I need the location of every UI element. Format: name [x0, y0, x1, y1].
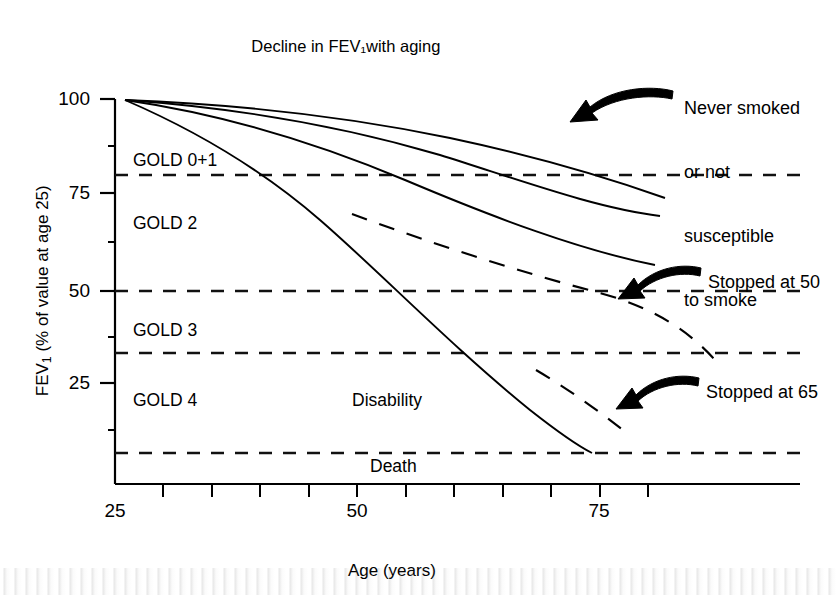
- curve-stopped-at-50: [352, 214, 715, 360]
- xtick-label-75: 75: [569, 500, 629, 522]
- zone-label-gold-3: GOLD 3: [133, 320, 197, 341]
- annotation-never-smoked-line2: or not: [684, 162, 800, 183]
- annotation-never-smoked: Never smoked or not susceptible to smoke: [684, 56, 800, 353]
- zone-label-death: Death: [370, 456, 417, 477]
- zone-label-disability: Disability: [352, 390, 422, 411]
- ytick-label-100: 100: [30, 88, 90, 110]
- annotation-stopped-at-65: Stopped at 65: [706, 382, 818, 403]
- y-axis-label-suffix: (% of value at age 25): [33, 185, 52, 356]
- x-minor-ticks: [163, 484, 648, 497]
- curve-susceptible-mild: [125, 100, 655, 265]
- y-axis-label-prefix: FEV: [33, 363, 52, 396]
- figure-container: Decline in FEV₁with aging 100 75 50 25 2…: [0, 0, 839, 595]
- chart-title-text: Decline in FEV₁with aging: [251, 37, 440, 55]
- xtick-label-25: 25: [85, 500, 145, 522]
- annotation-never-smoked-line1: Never smoked: [684, 98, 800, 119]
- zone-label-gold-2: GOLD 2: [133, 213, 197, 234]
- annotation-stopped-at-50: Stopped at 50: [708, 272, 820, 293]
- annotation-never-smoked-line3: susceptible: [684, 226, 800, 247]
- arrow-never-smoked: [570, 88, 673, 122]
- y-axis-label: FEV1 (% of value at age 25): [33, 161, 54, 421]
- y-axis-label-subscript: 1: [40, 356, 54, 363]
- xtick-label-50: 50: [327, 500, 387, 522]
- arrow-stopped-at-65: [616, 376, 699, 409]
- scan-artifact-band: [0, 568, 839, 595]
- chart-title: Decline in FEV₁with aging: [233, 18, 440, 76]
- zone-label-gold-4: GOLD 4: [133, 390, 197, 411]
- zone-label-gold-0-1: GOLD 0+1: [133, 150, 217, 171]
